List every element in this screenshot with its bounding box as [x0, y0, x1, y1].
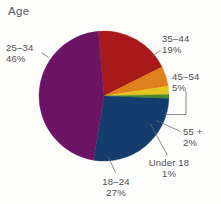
slice-label-18-24-percent: 27% [95, 187, 137, 198]
slice-label-45-54: 45–54 5% [172, 71, 199, 93]
slice-label-under-18-percent: 1% [145, 168, 193, 179]
slice-label-25-34: 25–34 46% [6, 42, 33, 64]
slice-label-18-24-name: 18–24 [102, 176, 129, 187]
leader-line-25-34 [42, 53, 49, 58]
slice-label-55-plus-percent: 2% [183, 137, 203, 148]
slice-label-55-plus-name: 55 + [183, 126, 203, 137]
slice-label-25-34-name: 25–34 [6, 42, 33, 53]
slice-label-25-34-percent: 46% [6, 53, 33, 64]
slice-label-35-44-name: 35–44 [162, 33, 189, 44]
slice-label-45-54-name: 45–54 [172, 71, 199, 82]
slice-label-35-44-percent: 19% [162, 44, 189, 55]
pie-slices-group [39, 31, 169, 161]
pie-slice-25-34 [39, 31, 104, 160]
slice-label-under-18: Under 18 1% [145, 157, 193, 179]
slice-label-under-18-name: Under 18 [149, 157, 190, 168]
slice-label-18-24: 18–24 27% [95, 176, 137, 198]
pie-slice-18-24 [93, 96, 169, 161]
age-pie-chart-figure: Age 25–34 46% 35–44 19% 45–54 5% 55 + [0, 0, 221, 204]
slice-label-45-54-percent: 5% [172, 82, 199, 93]
slice-label-35-44: 35–44 19% [162, 33, 189, 55]
slice-label-55-plus: 55 + 2% [183, 126, 203, 148]
